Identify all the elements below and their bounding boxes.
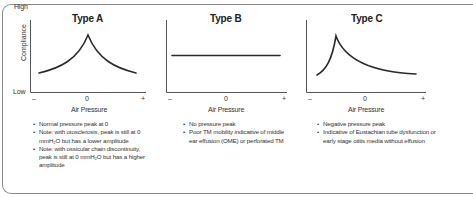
x-tick-plus: + [421, 95, 425, 102]
notes-type-b: No pressure peak Poor TM mobility indica… [182, 120, 287, 145]
note-item: Note: with otosclerosis, peak is still a… [32, 128, 150, 145]
curve-type-a [39, 35, 136, 73]
x-tick-zero: 0 [363, 95, 367, 102]
x-tick-zero: 0 [224, 95, 228, 102]
curve-type-c [317, 36, 416, 75]
x-tick-plus: + [282, 95, 286, 102]
x-tick-minus: – [168, 95, 172, 102]
x-axis-title-c: Air Pressure [348, 106, 384, 113]
note-item: Poor TM mobility indicative of middle ea… [182, 128, 287, 145]
notes-type-c: Negative pressure peak Indicative of Eus… [316, 120, 446, 145]
x-tick-plus: + [141, 95, 145, 102]
x-tick-zero: 0 [85, 95, 89, 102]
x-axis-title-b: Air Pressure [208, 106, 244, 113]
note-item: Negative pressure peak [316, 120, 446, 128]
note-item: No pressure peak [182, 120, 287, 128]
note-item: Indicative of Eustachian tube dysfunctio… [316, 128, 446, 145]
axes-type-a [31, 20, 147, 93]
x-axis-title-a: Air Pressure [71, 106, 107, 113]
panel-title-type-c: Type C [351, 13, 382, 24]
panel-title-type-a: Type A [72, 13, 103, 24]
note-item: Note: with ossicular chain discontinuity… [32, 145, 150, 170]
x-tick-minus: – [32, 95, 36, 102]
axes-type-c [307, 20, 427, 93]
notes-type-a: Normal pressure peak at 0 Note: with oto… [32, 120, 150, 170]
note-item: Normal pressure peak at 0 [32, 120, 150, 128]
panel-title-type-b: Type B [210, 13, 241, 24]
x-tick-minus: – [308, 95, 312, 102]
